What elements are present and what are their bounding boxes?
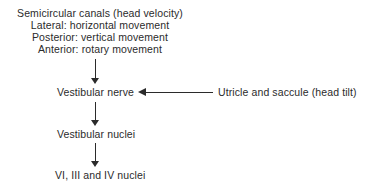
arrowhead-down-icon bbox=[91, 161, 99, 167]
connector-line-vertical bbox=[95, 59, 96, 79]
connector-line-vertical bbox=[95, 102, 96, 121]
node-cranial-nerve-nuclei: VI, III and IV nuclei bbox=[55, 169, 145, 181]
semicircular-canals-block: Semicircular canals (head velocity) Late… bbox=[10, 7, 190, 55]
connector-line-horizontal bbox=[146, 92, 213, 93]
arrowhead-down-icon bbox=[91, 78, 99, 84]
node-vestibular-nuclei: Vestibular nuclei bbox=[57, 128, 135, 140]
arrowhead-down-icon bbox=[91, 120, 99, 126]
lateral-canal-label: Lateral: horizontal movement bbox=[10, 19, 190, 31]
connector-line-vertical bbox=[95, 143, 96, 162]
node-vestibular-nerve: Vestibular nerve bbox=[57, 86, 134, 98]
arrowhead-left-icon bbox=[138, 88, 146, 96]
node-utricle-and-saccule: Utricle and saccule (head tilt) bbox=[218, 86, 357, 98]
semicircular-canals-heading: Semicircular canals (head velocity) bbox=[10, 7, 190, 19]
posterior-canal-label: Posterior: vertical movement bbox=[10, 31, 190, 43]
anterior-canal-label: Anterior: rotary movement bbox=[10, 43, 190, 55]
diagram-canvas: Semicircular canals (head velocity) Late… bbox=[0, 0, 371, 190]
